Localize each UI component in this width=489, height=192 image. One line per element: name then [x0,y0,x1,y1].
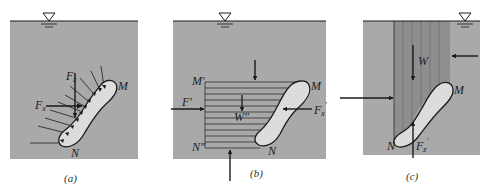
caption-a: (a) [64,172,77,185]
label-m-c: M [453,83,465,97]
label-m-a: M [117,79,129,93]
label-n-a: N [70,146,80,160]
label-n-c: N [386,139,396,153]
label-n-b: N [267,144,277,158]
label-n-prime: N″ [191,140,206,154]
label-f-prime: F′ [181,95,192,109]
label-w-prime: W″ [234,110,250,124]
label-fz-prime: Fz′ [415,137,428,154]
caption-b: (b) [250,167,263,180]
hydrostatic-force-diagram: Fz Fx M N (a) [0,0,489,192]
caption-c: (c) [406,170,419,183]
panel-b: M′ N″ F′ W″ Fx′ M N (b) [171,13,327,181]
label-fx-prime: Fx′ [313,101,327,118]
label-m-prime: M′ [191,74,205,88]
panel-a: Fz Fx M N (a) [10,13,138,185]
label-w-c: W [418,54,429,68]
label-m-b: M [310,79,322,93]
panel-c: W Fz′ M N (c) [340,13,480,183]
